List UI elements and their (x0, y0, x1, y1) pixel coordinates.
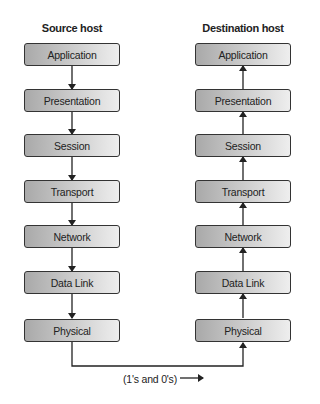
destination-layer-data-link: Data Link (195, 271, 291, 294)
destination-layer-transport: Transport (195, 180, 291, 203)
destination-layer-physical: Physical (195, 319, 291, 342)
destination-layer-network: Network (195, 225, 291, 248)
source-layer-transport: Transport (24, 180, 120, 203)
source-layer-application: Application (24, 43, 120, 66)
source-layer-network: Network (24, 225, 120, 248)
source-layer-session: Session (24, 134, 120, 157)
source-layer-presentation: Presentation (24, 89, 120, 112)
destination-layer-application: Application (195, 43, 291, 66)
destination-layer-session: Session (195, 134, 291, 157)
link-caption: (1's and 0's) (123, 373, 177, 385)
source-layer-physical: Physical (24, 319, 120, 342)
destination-layer-presentation: Presentation (195, 89, 291, 112)
source-layer-data-link: Data Link (24, 271, 120, 294)
